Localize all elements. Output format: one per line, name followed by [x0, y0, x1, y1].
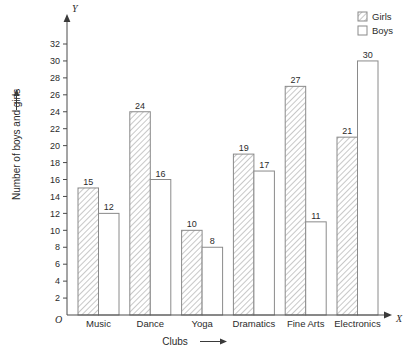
bar-music-girls — [78, 188, 99, 315]
category-label-dance: Dance — [137, 318, 164, 329]
y-tick-label: 10 — [50, 226, 60, 236]
legend-label-girls: Girls — [372, 11, 392, 22]
value-label: 15 — [83, 177, 93, 187]
bar-electronics-girls — [337, 137, 358, 315]
y-tick-label: 26 — [50, 90, 60, 100]
x-axis-title: Clubs — [162, 336, 188, 347]
y-tick-label: 30 — [50, 56, 60, 66]
bar-yoga-girls — [182, 230, 203, 315]
value-label: 30 — [363, 50, 373, 60]
bar-yoga-boys — [202, 247, 223, 315]
bar-chart-figure: 2468101214161820222426283032 15122416108… — [0, 0, 418, 352]
y-tick-label: 20 — [50, 141, 60, 151]
bar-fine-arts-boys — [306, 222, 327, 315]
legend-swatch-girls — [358, 12, 367, 21]
value-label: 24 — [135, 101, 145, 111]
bar-dramatics-boys — [254, 171, 275, 315]
y-tick-label: 6 — [55, 259, 60, 269]
x-axis-name-label: X — [395, 313, 403, 324]
y-tick-label: 16 — [50, 175, 60, 185]
value-label: 11 — [311, 211, 320, 221]
value-label: 10 — [187, 219, 197, 229]
y-tick-label: 2 — [55, 293, 60, 303]
y-tick-label: 8 — [55, 242, 60, 252]
category-label-yoga: Yoga — [191, 318, 213, 329]
bar-electronics-boys — [358, 61, 379, 315]
value-label: 27 — [290, 75, 300, 85]
y-tick-label: 28 — [50, 73, 60, 83]
y-tick-label: 14 — [50, 192, 60, 202]
legend-swatch-boys — [358, 26, 367, 35]
value-label: 19 — [239, 143, 249, 153]
value-label: 12 — [104, 202, 114, 212]
value-label: 21 — [342, 126, 352, 136]
value-label: 16 — [156, 169, 166, 179]
bar-music-boys — [99, 213, 120, 315]
category-label-music: Music — [86, 318, 111, 329]
bar-dance-girls — [130, 112, 151, 315]
value-label: 17 — [259, 160, 269, 170]
y-tick-label: 18 — [50, 158, 60, 168]
category-label-electronics: Electronics — [334, 318, 381, 329]
value-label: 8 — [210, 236, 215, 246]
y-tick-label: 22 — [50, 124, 60, 134]
category-label-dramatics: Dramatics — [233, 318, 276, 329]
legend-label-boys: Boys — [372, 25, 393, 36]
chart-canvas: 2468101214161820222426283032 15122416108… — [0, 0, 418, 352]
bar-fine-arts-girls — [285, 86, 306, 315]
y-tick-label: 24 — [50, 107, 60, 117]
y-tick-label: 4 — [55, 276, 60, 286]
y-tick-label: 32 — [50, 39, 60, 49]
origin-label: O — [55, 314, 62, 325]
category-label-fine-arts: Fine Arts — [287, 318, 325, 329]
bar-dramatics-girls — [233, 154, 254, 315]
bar-dance-boys — [150, 180, 171, 316]
y-tick-label: 12 — [50, 209, 60, 219]
